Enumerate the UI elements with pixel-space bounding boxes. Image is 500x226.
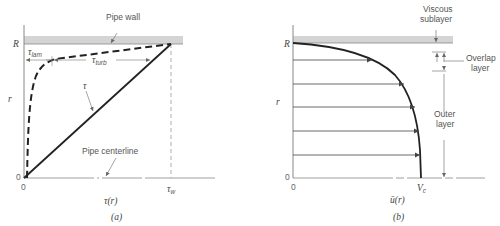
x-tick-tau-w: τw [167, 184, 176, 195]
viscous-label-1: Viscous [423, 4, 453, 14]
origin-y-a: 0 [16, 172, 21, 182]
x-axis-label-a: τ(r) [104, 196, 117, 207]
overlap-label-2: layer [471, 63, 490, 73]
origin-y-b: 0 [285, 172, 290, 182]
pipe-wall-label: Pipe wall [106, 12, 140, 22]
panel-b: Viscous sublayer Overlap layer Outer lay… [276, 4, 496, 223]
overlap-label-1: Overlap [466, 53, 496, 63]
viscous-label-2: sublayer [420, 14, 452, 24]
pipe-wall-band-b [293, 36, 453, 43]
y-axis-label-b: r [276, 97, 280, 107]
y-tick-R-a: R [12, 39, 19, 49]
x-tick-Vc: Vc [417, 183, 427, 194]
pipe-wall-band [24, 36, 183, 44]
tau-lam-label: τlam [28, 47, 42, 58]
caption-a: (a) [111, 212, 122, 223]
tau-label: τ [83, 81, 87, 91]
outer-label-2: layer [436, 119, 455, 129]
velocity-profile-curve [293, 43, 421, 178]
x-axis-label-b: ū(r) [390, 195, 405, 206]
panel-a: Pipe wall R r τlam τturb τ Pipe centerli… [8, 12, 215, 223]
pipe-centerline-label: Pipe centerline [82, 146, 139, 156]
origin-x-b: 0 [291, 182, 296, 192]
y-axis-label-a: r [8, 94, 12, 104]
tau-turb-label: τturb [92, 55, 107, 66]
outer-label-1: Outer [434, 109, 455, 119]
diagram-canvas: Pipe wall R r τlam τturb τ Pipe centerli… [0, 0, 500, 226]
y-tick-R-b: R [283, 39, 290, 49]
origin-x-a: 0 [21, 182, 26, 192]
caption-b: (b) [393, 212, 404, 223]
